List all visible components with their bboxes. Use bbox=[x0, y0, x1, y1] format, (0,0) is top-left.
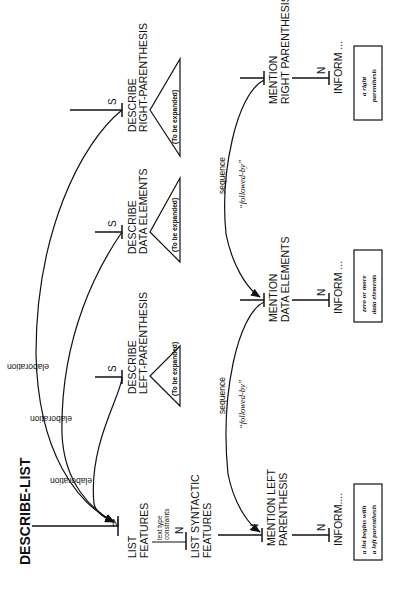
sequence-label-2: sequence bbox=[217, 157, 227, 194]
inform-data-box-line1: zero or more bbox=[360, 275, 368, 313]
inform-right-label: INFORM ... bbox=[332, 41, 344, 94]
list-syntactic-nucleus-label: N bbox=[174, 527, 185, 534]
mention-left-line2: PARENTHESIS bbox=[277, 473, 289, 546]
describe-right-line2: RIGHT-PARENTHESIS bbox=[137, 23, 149, 132]
mention-left-line1: MENTION LEFT bbox=[265, 468, 277, 546]
mention-right-line2: RIGHT PARENTHESIS bbox=[279, 0, 291, 104]
inform-left-nucleus-label: N bbox=[316, 524, 327, 531]
describe-right-satellite-label: S bbox=[107, 98, 118, 105]
describe-left-satellite-label: S bbox=[107, 365, 118, 372]
inform-data-box-line2: data elements bbox=[370, 274, 378, 314]
rotated-diagram: DESCRIBE-LIST N LIST FEATURES text type … bbox=[0, 0, 408, 594]
elaboration-curve-right bbox=[36, 110, 122, 522]
sequence-label-1: sequence bbox=[217, 377, 227, 414]
list-syntactic-line1: LIST SYNTACTIC bbox=[189, 474, 201, 558]
sequence-gloss-1: “followed-by” bbox=[237, 379, 247, 429]
inform-left-box-line2: a left parenthesis bbox=[370, 504, 378, 554]
inform-data-label: INFORM ... bbox=[332, 261, 344, 314]
describe-left-subtree-label: (To be expanded) bbox=[171, 342, 179, 396]
elaboration-label-left: elaboration bbox=[50, 476, 92, 486]
elaboration-curve-left bbox=[93, 377, 122, 522]
list-features-line2: FEATURES bbox=[138, 503, 150, 558]
text-type-constraints-line2: constraints bbox=[163, 508, 170, 540]
list-syntactic-line2: FEATURES bbox=[201, 503, 213, 558]
inform-right-box-line2: parenthesis bbox=[370, 69, 378, 103]
list-features-line1: LIST bbox=[126, 535, 138, 558]
inform-left-label: INFORM.... bbox=[332, 493, 344, 546]
describe-data-satellite-label: S bbox=[107, 220, 118, 227]
elaboration-label-right: elaboration bbox=[7, 362, 49, 372]
inform-data-nucleus-label: N bbox=[316, 289, 327, 296]
describe-data-subtree-label: (To be expanded) bbox=[171, 198, 179, 252]
inform-right-nucleus-label: N bbox=[316, 67, 327, 74]
mention-data-line2: DATA ELEMENTS bbox=[279, 237, 291, 322]
rst-diagram: DESCRIBE-LIST N LIST FEATURES text type … bbox=[0, 0, 408, 594]
mention-data-line1: MENTION bbox=[267, 274, 279, 322]
elaboration-label-data: elaboration bbox=[30, 414, 72, 424]
diagram-title: DESCRIBE-LIST bbox=[17, 457, 33, 565]
list-features-nucleus-label: N bbox=[112, 518, 119, 529]
describe-right-subtree-label: (To be expanded) bbox=[171, 90, 179, 144]
inform-right-box-line1: a right bbox=[360, 76, 368, 96]
describe-data-line2: DATA ELEMENTS bbox=[137, 169, 149, 254]
mention-right-line1: MENTION bbox=[267, 56, 279, 104]
inform-left-box-line1: a list begins with bbox=[360, 505, 368, 554]
describe-left-line2: LEFT-PARENTHESIS bbox=[137, 292, 149, 394]
sequence-gloss-2: “followed-by” bbox=[237, 159, 247, 209]
